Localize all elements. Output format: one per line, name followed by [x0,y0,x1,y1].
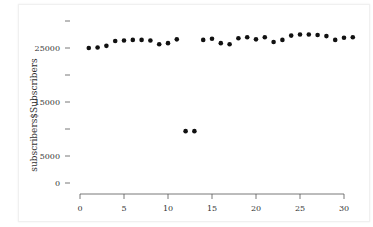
data-point [236,36,241,41]
x-tick-label: 25 [295,204,305,213]
data-point [289,33,294,38]
data-point [148,38,153,43]
data-point [351,35,356,40]
data-point [315,33,320,38]
data-point [271,40,276,45]
data-point [175,37,180,42]
data-point [210,37,215,42]
data-point [166,41,171,46]
x-tick-label: 0 [77,204,82,213]
y-tick-label: 5000 [40,152,60,161]
data-point [139,38,144,43]
data-point [131,38,136,43]
x-tick-label: 10 [163,204,173,213]
data-point [254,37,259,42]
data-point [122,38,127,43]
data-point [333,38,338,43]
data-point [95,45,100,50]
data-point [192,129,197,134]
data-point [113,39,118,44]
data-point [245,35,250,40]
x-tick-label: 20 [251,204,261,213]
data-point [183,129,188,134]
data-point [280,38,285,43]
y-tick-label: 15000 [35,98,60,107]
data-point [104,44,109,49]
data-point [157,42,162,47]
data-point [342,35,347,40]
y-axis-label: subscribers$Subscribers [29,58,39,172]
y-tick-label: 25000 [35,44,60,53]
x-tick-label: 5 [121,204,126,213]
y-axis: 050001500025000 [35,21,70,188]
data-point [324,34,329,39]
data-points [87,32,356,133]
data-point [201,38,206,43]
scatter-chart: subscribers$Subscribers 050001500025000 … [0,0,373,227]
y-tick-label: 0 [55,179,60,188]
x-axis: 051015202530 [77,194,349,213]
data-point [87,46,92,51]
data-point [219,41,224,46]
data-point [307,32,312,37]
x-tick-label: 30 [339,204,349,213]
x-tick-label: 15 [207,204,217,213]
data-point [298,32,303,37]
data-point [263,35,268,40]
data-point [227,42,232,47]
